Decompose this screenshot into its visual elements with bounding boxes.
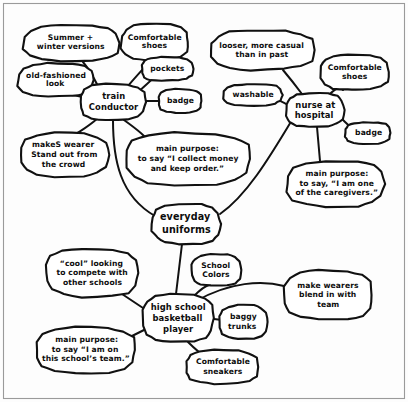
- node-label-nurse-at-hospital: nurse athospital: [295, 99, 336, 120]
- node-main-purpose-nurse[interactable]: main purpose:to say, “I am oneof the car…: [286, 161, 385, 207]
- node-label-baggy-trunks: baggytrunks: [228, 312, 257, 331]
- node-makes-wearer-stand-out[interactable]: makeS wearerStand out fromthe crowd: [21, 132, 109, 177]
- node-label-washable: washable: [233, 90, 274, 99]
- node-label-comfortable-sneakers: Comfortablesneakers: [196, 357, 250, 376]
- node-comfortable-sneakers[interactable]: Comfortablesneakers: [186, 350, 258, 385]
- node-label-main-purpose-nurse: main purpose:to say, “I am oneof the car…: [295, 169, 378, 197]
- node-high-school-basketball-player[interactable]: high schoolbasketballplayer: [143, 294, 214, 342]
- node-nurse-at-hospital[interactable]: nurse athospital: [286, 93, 345, 127]
- connector-high-school-basketball-player-to-cool-looking: [122, 294, 143, 308]
- connector-nurse-at-hospital-to-looser-more-casual: [283, 70, 302, 94]
- node-label-school-colors: SchoolColors: [201, 261, 230, 279]
- node-cool-looking[interactable]: “cool” lookingto compete withother schoo…: [46, 249, 138, 298]
- node-label-badge-nurse: badge: [355, 128, 382, 137]
- node-label-pockets: pockets: [150, 64, 184, 73]
- node-comfortable-shoes-conductor[interactable]: Comfortableshoes: [121, 24, 188, 61]
- connector-everyday-uniforms-to-high-school-basketball-player: [176, 244, 182, 294]
- node-comfortable-shoes-nurse[interactable]: Comfortableshoes: [320, 55, 388, 90]
- node-everyday-uniforms[interactable]: everydayuniforms: [151, 204, 221, 244]
- connector-train-conductor-to-main-purpose-conductor: [124, 120, 144, 136]
- connector-train-conductor-to-makes-wearer-stand-out: [76, 118, 98, 134]
- node-school-colors[interactable]: SchoolColors: [191, 254, 241, 285]
- node-label-main-purpose-basketball: main purpose:to say “I am onthis school’…: [42, 335, 130, 363]
- node-label-badge-conductor: badge: [167, 96, 194, 105]
- node-baggy-trunks[interactable]: baggytrunks: [219, 305, 267, 339]
- concept-map-canvas: Summer +winter versionsComfortableshoeso…: [0, 0, 408, 402]
- node-label-everyday-uniforms: everydayuniforms: [160, 211, 211, 235]
- node-train-conductor[interactable]: trainConductor: [81, 84, 146, 120]
- node-washable[interactable]: washable: [223, 84, 283, 106]
- connector-nurse-at-hospital-to-main-purpose-nurse: [317, 127, 320, 161]
- node-main-purpose-basketball[interactable]: main purpose:to say “I am onthis school’…: [37, 327, 135, 374]
- node-pockets[interactable]: pockets: [142, 57, 194, 81]
- node-label-cool-looking: “cool” lookingto compete withother schoo…: [57, 259, 128, 287]
- node-badge-conductor[interactable]: badge: [159, 89, 202, 113]
- node-make-wearers-blend-in[interactable]: make wearersblend in withteam: [284, 270, 372, 319]
- node-looser-more-casual[interactable]: looser, more casualthan in past: [211, 31, 315, 71]
- node-badge-nurse[interactable]: badge: [345, 122, 391, 144]
- concept-nodes-group: Summer +winter versionsComfortableshoeso…: [17, 24, 390, 384]
- node-main-purpose-conductor[interactable]: main purpose:to say “I collect moneyand …: [126, 132, 249, 185]
- node-summer-winter-versions[interactable]: Summer +winter versions: [23, 25, 120, 61]
- concept-map-svg: Summer +winter versionsComfortableshoeso…: [0, 0, 408, 402]
- node-old-fashioned-look[interactable]: old-fashionedlook: [17, 63, 93, 97]
